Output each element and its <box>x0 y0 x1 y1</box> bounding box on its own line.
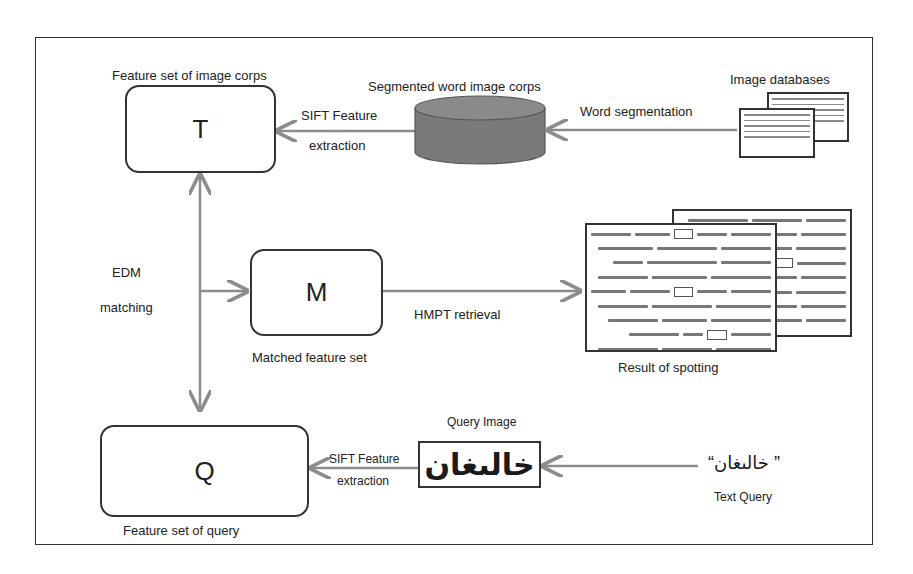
corpus-caption: Segmented word image corps <box>368 79 541 94</box>
query-image-box[interactable]: خالىغان <box>418 441 541 488</box>
sift-label-bottom-1: SIFT Feature <box>329 452 399 466</box>
node-M-letter: M <box>306 277 328 308</box>
result-caption: Result of spotting <box>618 360 718 375</box>
query-image-caption: Query Image <box>447 415 516 429</box>
node-Q[interactable]: Q <box>100 425 309 517</box>
node-Q-letter: Q <box>194 456 214 487</box>
T-caption: Feature set of image corps <box>112 68 267 83</box>
node-M[interactable]: M <box>250 249 383 336</box>
sift-label-bottom-2: extraction <box>337 474 389 488</box>
M-caption: Matched feature set <box>252 350 367 365</box>
sift-label-top-2: extraction <box>309 138 365 153</box>
edm-label-2: matching <box>100 300 153 315</box>
corpus-cylinder-icon <box>415 96 545 164</box>
hmpt-label: HMPT retrieval <box>414 307 500 322</box>
Q-caption: Feature set of query <box>123 523 239 538</box>
word-segmentation-label: Word segmentation <box>580 104 693 119</box>
text-query-caption: Text Query <box>714 490 772 504</box>
node-T[interactable]: T <box>125 85 276 173</box>
node-T-letter: T <box>193 114 209 145</box>
sift-label-top-1: SIFT Feature <box>301 108 377 123</box>
result-page-front <box>585 223 777 352</box>
edm-label-1: EDM <box>112 265 141 280</box>
text-query-value: ” خالىغان“ <box>708 452 780 474</box>
databases-caption: Image databases <box>730 72 830 87</box>
database-page-front <box>739 108 815 158</box>
query-image-word: خالىغان <box>424 447 534 482</box>
